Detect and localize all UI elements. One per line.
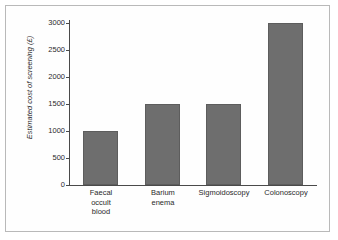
category-label-line: Sigmoidoscopy [193,188,255,198]
bar-4 [268,23,303,185]
y-tick-label: 3000 [25,18,65,27]
category-label-4: Colonoscopy [255,188,317,198]
y-tick-mark [66,50,70,51]
category-label-line: blood [70,207,132,217]
y-axis-title: Estimated cost of screening (£) [25,13,34,163]
category-label-line: occult [70,198,132,208]
y-tick-mark [66,158,70,159]
y-tick-mark [66,77,70,78]
y-tick-label: 2000 [25,72,65,81]
y-tick-label: 1000 [25,126,65,135]
x-axis-line [69,185,317,186]
bar-1 [83,131,118,185]
y-tick-label: 500 [25,153,65,162]
category-label-1: Faecaloccultblood [70,188,132,217]
category-label-line: enema [132,198,194,208]
category-label-line: Faecal [70,188,132,198]
y-tick-label: 1500 [25,99,65,108]
chart-figure: Estimated cost of screening (£) 05001000… [0,0,338,240]
bar-3 [206,104,241,185]
y-axis-line [69,20,70,186]
category-label-3: Sigmoidoscopy [193,188,255,198]
y-tick-label: 0 [25,180,65,189]
y-tick-mark [66,131,70,132]
bar-2 [145,104,180,185]
category-label-line: Colonoscopy [255,188,317,198]
y-tick-mark [66,104,70,105]
y-tick-mark [66,23,70,24]
y-tick-label: 2500 [25,45,65,54]
category-label-line: Barium [132,188,194,198]
y-tick-mark [66,185,70,186]
category-label-2: Bariumenema [132,188,194,207]
